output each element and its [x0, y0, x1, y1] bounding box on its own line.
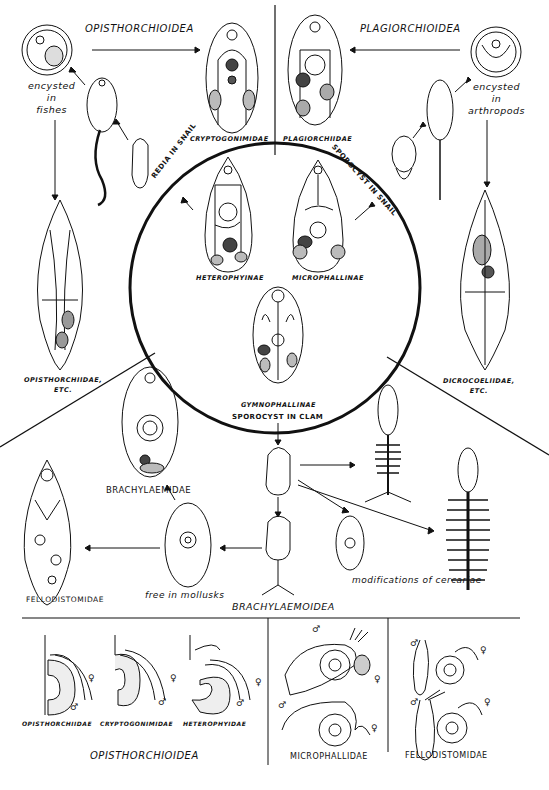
male-symbol: ♂: [410, 697, 419, 707]
male-symbol: ♂: [236, 698, 245, 708]
label-microphallinae: MICROPHALLINAE: [292, 274, 364, 282]
label-heterophyinae: HETEROPHYINAE: [196, 274, 264, 282]
male-symbol: ♂: [70, 702, 79, 712]
label-bottom-opisthorchioidea: OPISTHORCHIOIDEA: [90, 750, 199, 761]
male-symbol: ♂: [278, 700, 287, 710]
label-sporocyst-in-clam: SPOROCYST IN CLAM: [232, 413, 323, 421]
central-circle: [130, 143, 420, 433]
label-modifications-of-cercariae: modifications of cercariae: [352, 575, 482, 585]
female-symbol: ♀: [170, 673, 177, 683]
label-dicrocoeliidae-etc: DICROCOELIIDAE, ETC.: [443, 376, 515, 396]
label-bottom-opisthorchiidae: OPISTHORCHIIDAE: [22, 720, 92, 727]
label-gymnophallinae: GYMNOPHALLINAE: [241, 401, 316, 409]
male-symbol: ♂: [410, 638, 419, 648]
label-brachylaemoidea: BRACHYLAEMOIDEA: [232, 601, 335, 612]
female-symbol: ♀: [255, 677, 262, 687]
male-symbol: ♂: [312, 624, 321, 634]
label-fellodistomidae: FELLODISTOMIDAE: [26, 595, 104, 604]
female-symbol: ♀: [480, 645, 487, 655]
label-plagiorchiidae: PLAGIORCHIIDAE: [283, 135, 352, 143]
label-plagiorchioidea: PLAGIORCHIOIDEA: [360, 23, 461, 34]
label-brachylaemidae: BRACHYLAEMIDAE: [106, 485, 191, 495]
label-cryptogonimidae: CRYPTOGONIMIDAE: [190, 135, 269, 143]
label-bottom-heterophyidae: HETEROPHYIDAE: [183, 720, 246, 727]
female-symbol: ♀: [484, 697, 491, 707]
label-bottom-cryptogonimidae: CRYPTOGONIMIDAE: [100, 720, 173, 727]
label-free-in-mollusks: free in mollusks: [145, 590, 224, 600]
label-opisthorchiidae-etc: OPISTHORCHIIDAE, ETC.: [24, 375, 102, 395]
female-symbol: ♀: [371, 723, 378, 733]
label-bottom-microphallidae: MICROPHALLIDAE: [290, 752, 368, 761]
male-symbol: ♂: [158, 697, 167, 707]
label-bottom-fellodistomidae: FELLODISTOMIDAE: [405, 751, 488, 760]
label-encysted-in-fishes: encysted in fishes: [28, 80, 75, 116]
label-opisthorchioidea-top: OPISTHORCHIOIDEA: [85, 23, 194, 34]
female-symbol: ♀: [88, 673, 95, 683]
label-encysted-in-arthropods: encysted in arthropods: [468, 81, 525, 117]
female-symbol: ♀: [374, 674, 381, 684]
